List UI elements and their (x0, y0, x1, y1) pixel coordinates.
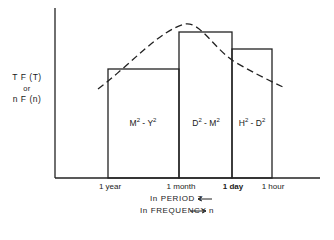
spectral-curve (98, 24, 283, 89)
tick-label-year: 1 year (99, 182, 121, 191)
y-label-line-3: n F (n) (4, 94, 50, 105)
y-label-line-1: T F (T) (4, 72, 50, 83)
tick-label-day: 1 day (223, 182, 243, 191)
x-axis-title-frequency: In FREQUENCY n (140, 206, 214, 215)
x-axis-title-period: In PERIOD T (150, 194, 203, 203)
y-axis-label: T F (T) or n F (n) (4, 72, 50, 105)
bar-label-3: H2 - D2 (239, 118, 266, 128)
tick-label-hour: 1 hour (262, 182, 285, 191)
bar-hour-day (232, 49, 272, 178)
bar-label-2: D2 - M2 (192, 118, 219, 128)
bar-label-1: M2 - Y2 (130, 118, 157, 128)
tick-label-month: 1 month (167, 182, 196, 191)
y-label-line-2: or (4, 83, 50, 94)
